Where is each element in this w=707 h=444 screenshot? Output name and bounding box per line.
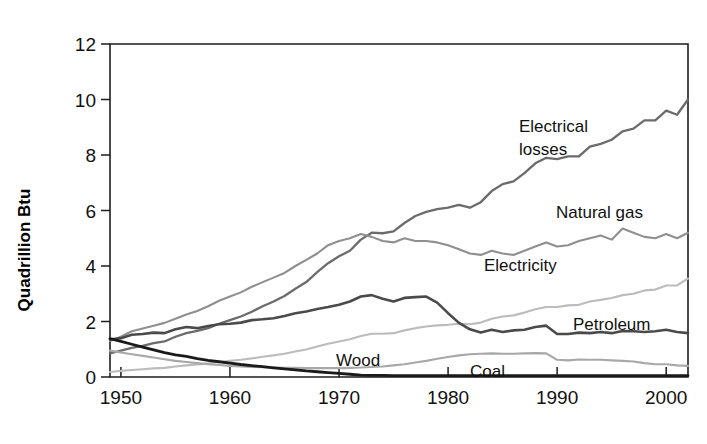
series-line-coal <box>110 339 688 376</box>
y-tick-label: 10 <box>75 90 96 111</box>
y-tick-label: 2 <box>85 312 96 333</box>
series-lines <box>110 100 688 376</box>
y-tick-label: 12 <box>75 34 96 55</box>
y-tick-label: 4 <box>85 256 96 277</box>
y-tick-label: 6 <box>85 201 96 222</box>
x-tick-label: 1960 <box>209 387 251 408</box>
series-label-losses: losses <box>519 140 567 159</box>
series-label-petroleum: Petroleum <box>573 315 650 334</box>
series-label-coal: Coal <box>470 362 505 381</box>
chart-container: 024681012 195019601970198019902000 Elect… <box>0 0 707 444</box>
x-tick-label: 2000 <box>645 387 687 408</box>
y-tick-label: 0 <box>85 367 96 388</box>
series-label-electrical: Electrical <box>519 117 588 136</box>
x-tick-label: 1970 <box>318 387 360 408</box>
series-label-wood: Wood <box>336 351 380 370</box>
x-tick-label: 1950 <box>100 387 142 408</box>
y-tick-label: 8 <box>85 145 96 166</box>
y-axis-title: Quadrillion Btu <box>15 189 34 312</box>
series-label-electricity: Electricity <box>484 256 557 275</box>
series-annotations: ElectricallossesNatural gasElectricityPe… <box>336 117 650 381</box>
series-label-natural-gas: Natural gas <box>556 203 643 222</box>
x-axis-ticks: 195019601970198019902000 <box>100 367 688 408</box>
line-chart: 024681012 195019601970198019902000 Elect… <box>0 0 707 444</box>
y-axis-ticks: 024681012 <box>75 34 110 388</box>
x-tick-label: 1990 <box>536 387 578 408</box>
x-tick-label: 1980 <box>427 387 469 408</box>
